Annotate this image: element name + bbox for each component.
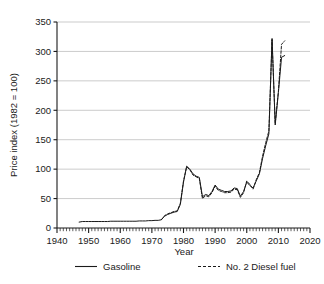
y-tick-label-300: 300 [35, 46, 51, 57]
x-tick-label-1950: 1950 [78, 235, 99, 246]
y-tick-label-50: 50 [40, 193, 51, 204]
legend-label-1: Gasoline [103, 261, 141, 272]
x-tick-label-1990: 1990 [205, 235, 226, 246]
x-tick-label-2020: 2020 [299, 235, 320, 246]
price-index-line-chart: 050100150200250300350 194019501960197019… [0, 0, 324, 284]
x-tick-label-1970: 1970 [141, 235, 162, 246]
x-tick-label-1940: 1940 [46, 235, 67, 246]
y-tick-label-100: 100 [35, 163, 51, 174]
y-axis-title: Price index (1982 = 100) [8, 73, 19, 177]
legend-label-2: No. 2 Diesel fuel [226, 261, 296, 272]
y-tick-label-150: 150 [35, 134, 51, 145]
x-tick-label-1960: 1960 [110, 235, 131, 246]
x-tick-label-2000: 2000 [236, 235, 257, 246]
chart-figure: 050100150200250300350 194019501960197019… [0, 0, 324, 284]
y-tick-label-0: 0 [46, 222, 51, 233]
x-axis-tick-labels: 194019501960197019801990200020102020 [46, 235, 320, 246]
x-tick-label-1980: 1980 [173, 235, 194, 246]
y-tick-label-350: 350 [35, 16, 51, 27]
y-tick-label-250: 250 [35, 75, 51, 86]
x-axis-title: Year [174, 246, 193, 257]
y-tick-label-200: 200 [35, 105, 51, 116]
x-tick-label-2010: 2010 [268, 235, 289, 246]
